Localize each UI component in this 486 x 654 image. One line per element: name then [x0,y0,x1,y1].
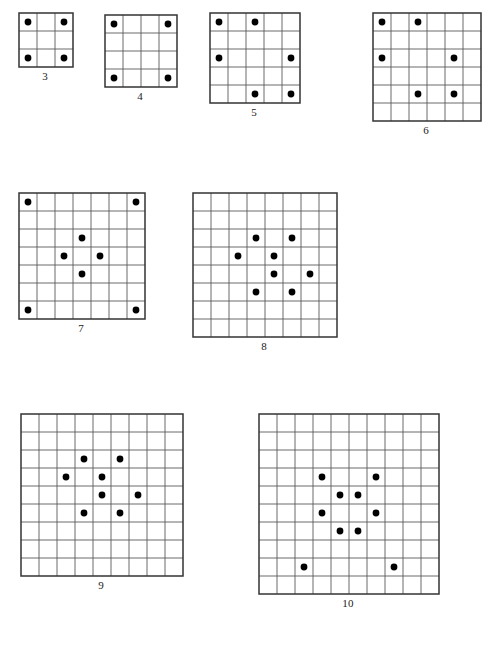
grid-dot[interactable] [415,91,422,98]
puzzle-figure-10: 10 [258,413,438,593]
grid-dot[interactable] [288,91,295,98]
grid-lines [259,414,439,594]
grid-canvas [18,192,146,320]
grid-dot[interactable] [99,492,106,499]
grid-5[interactable] [209,12,299,102]
grid-dot[interactable] [133,307,140,314]
grid-dot[interactable] [373,510,380,517]
grid-dot[interactable] [355,492,362,499]
grid-canvas [192,192,338,338]
grid-dot[interactable] [25,55,32,62]
grid-dot[interactable] [337,528,344,535]
puzzle-figure-8: 8 [192,192,336,336]
grid-dot[interactable] [61,253,68,260]
grid-dot[interactable] [319,474,326,481]
grid-dot[interactable] [97,253,104,260]
grid-dot[interactable] [379,55,386,62]
grid-dot[interactable] [253,235,260,242]
figure-caption: 4 [104,90,176,103]
grid-dot[interactable] [117,456,124,463]
grid-dot[interactable] [355,528,362,535]
grid-dot[interactable] [79,271,86,278]
grid-dot[interactable] [451,55,458,62]
grid-lines [193,193,337,337]
figure-caption: 9 [20,579,182,592]
grid-6[interactable] [372,12,480,120]
grid-dot[interactable] [253,289,260,296]
puzzle-figure-4: 4 [104,14,176,86]
grid-dot[interactable] [81,456,88,463]
grid-dot[interactable] [271,271,278,278]
grid-dot[interactable] [379,19,386,26]
grid-canvas [258,413,440,595]
grid-dot[interactable] [117,510,124,517]
figure-caption: 6 [372,124,480,137]
grid-dot[interactable] [165,21,172,28]
dot-layer [379,19,458,98]
grid-canvas [104,14,178,88]
grid-dot[interactable] [165,75,172,82]
grid-canvas [18,12,74,68]
puzzle-figure-6: 6 [372,12,480,120]
puzzle-figure-7: 7 [18,192,144,318]
puzzle-figure-5: 5 [209,12,299,102]
grid-border [19,193,145,319]
grid-dot[interactable] [451,91,458,98]
grid-dot[interactable] [99,474,106,481]
grid-10[interactable] [258,413,438,593]
figure-sheet: 345678910 [0,0,486,654]
grid-dot[interactable] [288,55,295,62]
grid-dot[interactable] [61,19,68,26]
grid-7[interactable] [18,192,144,318]
grid-lines [210,13,300,103]
grid-canvas [372,12,482,122]
grid-border [210,13,300,103]
figure-caption: 7 [18,322,144,335]
grid-dot[interactable] [63,474,70,481]
grid-dot[interactable] [135,492,142,499]
grid-dot[interactable] [81,510,88,517]
grid-dot[interactable] [111,75,118,82]
grid-4[interactable] [104,14,176,86]
figure-caption: 8 [192,340,336,353]
dot-layer [25,19,68,62]
grid-dot[interactable] [25,19,32,26]
grid-9[interactable] [20,413,182,575]
puzzle-figure-9: 9 [20,413,182,575]
grid-dot[interactable] [79,235,86,242]
grid-dot[interactable] [289,235,296,242]
grid-lines [373,13,481,121]
dot-layer [216,19,295,98]
grid-dot[interactable] [235,253,242,260]
figure-caption: 10 [258,597,438,610]
figure-caption: 3 [18,70,72,83]
grid-8[interactable] [192,192,336,336]
grid-lines [19,193,145,319]
grid-dot[interactable] [391,564,398,571]
grid-dot[interactable] [216,19,223,26]
grid-dot[interactable] [301,564,308,571]
figure-caption: 5 [209,106,299,119]
grid-canvas [20,413,184,577]
grid-dot[interactable] [271,253,278,260]
grid-dot[interactable] [25,199,32,206]
dot-layer [25,199,140,314]
grid-dot[interactable] [307,271,314,278]
grid-dot[interactable] [25,307,32,314]
grid-dot[interactable] [373,474,380,481]
grid-3[interactable] [18,12,72,66]
grid-dot[interactable] [133,199,140,206]
grid-dot[interactable] [61,55,68,62]
grid-dot[interactable] [337,492,344,499]
grid-dot[interactable] [415,19,422,26]
grid-dot[interactable] [111,21,118,28]
puzzle-figure-3: 3 [18,12,72,66]
grid-dot[interactable] [216,55,223,62]
grid-dot[interactable] [319,510,326,517]
grid-dot[interactable] [252,91,259,98]
grid-dot[interactable] [289,289,296,296]
grid-dot[interactable] [252,19,259,26]
grid-canvas [209,12,301,104]
